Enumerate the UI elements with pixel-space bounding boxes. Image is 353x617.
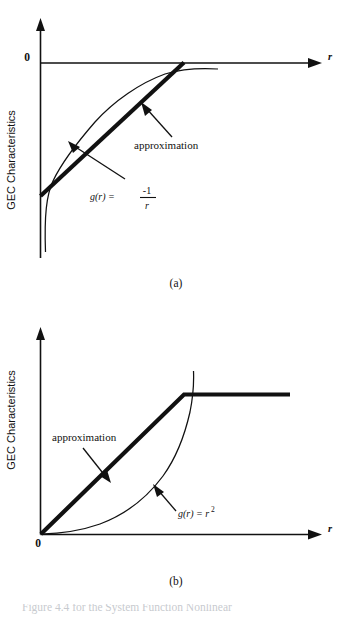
y-axis-b xyxy=(36,327,45,535)
x-axis-label-a: r xyxy=(328,51,333,62)
y-axis-zero-label-a: 0 xyxy=(24,51,30,63)
figure-caption-clipped: Figure 4.4 for the System Function Nonli… xyxy=(0,604,353,617)
y-axis-arrowhead-a xyxy=(36,18,45,31)
x-axis-arrowhead-a xyxy=(308,58,322,68)
y-axis-title-a: GEC Characteristics xyxy=(5,110,17,210)
annotation-approximation-a: approximation xyxy=(134,102,199,151)
x-axis-arrowhead-b xyxy=(308,530,322,540)
function-label-a: g(r) = xyxy=(90,191,115,203)
approximation-label-a: approximation xyxy=(134,139,199,151)
curve-approximation-b xyxy=(41,395,290,535)
figure-caption-text: Figure 4.4 for the System Function Nonli… xyxy=(22,604,342,613)
y-axis-title-b: GEC Characteristics xyxy=(5,370,17,470)
annotation-approximation-b: approximation xyxy=(52,431,117,483)
function-label-b: g(r) = r xyxy=(178,508,209,520)
annotation-function-b: g(r) = r 2 xyxy=(153,484,215,520)
curve-approximation-a xyxy=(41,63,185,197)
chart-panel-b: 0 r GEC Characteristics approximation g(… xyxy=(0,300,353,600)
x-axis-label-b: r xyxy=(328,523,333,534)
approximation-arrowhead-a xyxy=(141,102,152,116)
x-axis-b xyxy=(41,530,323,540)
function-numerator-a: -1 xyxy=(143,185,151,196)
figure-container: 0 r GEC Characteristics approximation g(… xyxy=(0,0,353,617)
panel-label-a: (a) xyxy=(170,277,183,290)
y-axis-a xyxy=(36,18,45,258)
function-exponent-b: 2 xyxy=(211,505,215,514)
approximation-label-b: approximation xyxy=(52,431,117,443)
curve-minus-one-over-r xyxy=(45,69,218,252)
chart-panel-a: 0 r GEC Characteristics approximation g(… xyxy=(0,0,353,300)
annotation-function-a: g(r) = -1 r xyxy=(68,141,156,211)
panel-label-b: (b) xyxy=(169,575,183,588)
origin-label-b: 0 xyxy=(35,537,41,549)
function-denominator-a: r xyxy=(145,200,149,211)
y-axis-arrowhead-b xyxy=(36,327,45,340)
